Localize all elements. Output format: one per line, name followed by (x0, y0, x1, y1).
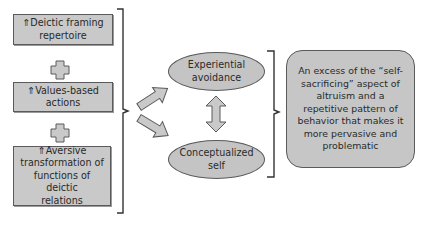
outcome-line: problematic (323, 140, 379, 151)
aversive-transformation-box: ⇑Aversive transformation of functions of… (13, 146, 111, 206)
right-brace (267, 51, 279, 177)
box-label-line: repertoire (39, 30, 87, 41)
box-label-line: Deictic framing (30, 17, 103, 28)
up-arrow-icon: ⇑ (38, 145, 46, 156)
box-label-line: relations (41, 195, 83, 206)
plus-icon (51, 61, 69, 79)
ellipse-label-line: self (208, 160, 225, 171)
ellipse-label-line: Conceptualized (180, 147, 254, 158)
left-brace (117, 9, 128, 213)
outcome-line: behavior that makes it (297, 115, 403, 126)
ellipse-label-line: Experiential (188, 59, 245, 70)
box-label-line: functions of deictic (34, 170, 91, 194)
outcome-box: An excess of the “self- sacrificing” asp… (286, 50, 415, 168)
outcome-line: sacrificing” aspect of (301, 78, 400, 89)
outcome-line: more pervasive and (304, 128, 398, 139)
box-label-line: actions (46, 97, 81, 108)
double-arrow-icon (206, 96, 226, 132)
values-based-actions-box: ⇑Values-based actions (13, 82, 113, 112)
outcome-line: An excess of the “self- (298, 65, 403, 76)
box-label-line: Aversive (46, 145, 87, 156)
conceptualized-self-ellipse: Conceptualized self (168, 140, 265, 179)
outcome-line: altruism and a (317, 90, 385, 101)
ellipse-label-line: avoidance (192, 72, 241, 83)
box-label-line: transformation of (20, 157, 104, 168)
up-arrow-icon: ⇑ (27, 85, 35, 96)
outcome-line: repetitive pattern of (303, 103, 397, 114)
arrow-to-experiential-avoidance (134, 81, 172, 115)
deictic-framing-repertoire-box: ⇑Deictic framing repertoire (13, 14, 113, 45)
arrow-to-conceptualized-self (134, 110, 172, 143)
plus-icon (51, 124, 69, 142)
box-label-line: Values-based (35, 85, 99, 96)
experiential-avoidance-ellipse: Experiential avoidance (168, 52, 265, 91)
